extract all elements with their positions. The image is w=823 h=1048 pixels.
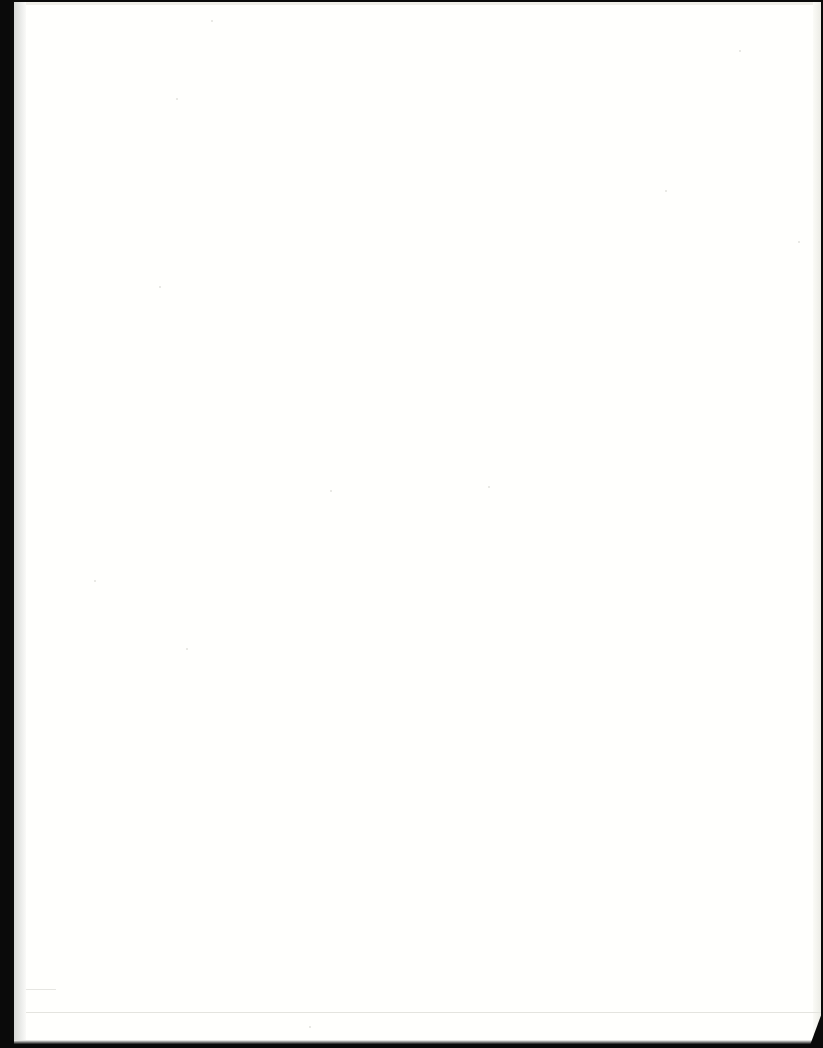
dust-speck (798, 241, 800, 243)
dust-speck (211, 20, 213, 22)
page-bottom-edge (14, 1040, 821, 1044)
blank-page (14, 2, 821, 1044)
scanned-document (0, 0, 823, 1048)
dust-speck (488, 486, 490, 488)
page-right-edge-shadow (813, 2, 821, 1044)
page-top-edge (14, 2, 821, 5)
crease-mark (26, 989, 56, 990)
dust-speck (159, 286, 161, 288)
dust-speck (309, 1026, 311, 1028)
dust-speck (94, 580, 96, 582)
fold-line (26, 1012, 821, 1013)
page-corner (809, 1010, 823, 1048)
dust-speck (330, 490, 332, 492)
dust-speck (186, 648, 188, 650)
dust-speck (176, 98, 178, 100)
dust-speck (665, 190, 667, 192)
dust-speck (739, 50, 741, 52)
page-left-edge-shadow (14, 2, 26, 1044)
